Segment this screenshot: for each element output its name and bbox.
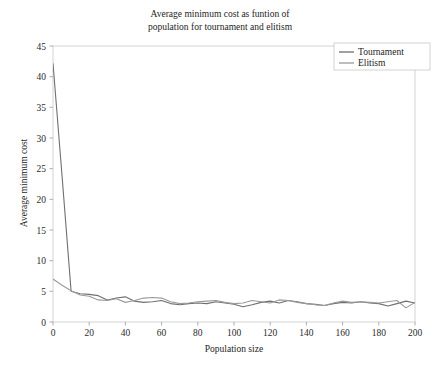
y-tick-label: 20 [37,195,47,205]
y-tick-label: 15 [37,226,47,236]
x-tick-label: 80 [193,328,203,338]
series-line-tournament [53,63,415,307]
chart-legend: TournamentElitism [334,43,430,70]
x-tick-label: 160 [335,328,350,338]
x-tick-label: 0 [51,328,56,338]
legend-item-elitism: Elitism [358,58,386,68]
y-tick-label: 45 [37,42,47,52]
x-axis-label: Population size [53,344,415,354]
y-tick-label: 35 [37,103,47,113]
x-tick-label: 120 [263,328,278,338]
chart-title: Average minimum cost as funtion of popul… [70,8,370,34]
y-tick-label: 10 [37,256,47,266]
series-line-elitism [53,279,415,308]
y-tick-label: 25 [37,164,47,174]
y-tick-label: 5 [41,287,46,297]
y-tick-label: 0 [41,318,46,328]
chart-figure: Average minimum cost as funtion of popul… [0,0,443,374]
x-tick-label: 100 [227,328,242,338]
legend-item-tournament: Tournament [358,47,404,57]
x-tick-label: 140 [299,328,314,338]
y-tick-label: 40 [37,72,47,82]
x-tick-label: 20 [84,328,94,338]
plot-area: 0204060801001201401601802000510152025303… [0,0,443,374]
y-tick-label: 30 [37,134,47,144]
x-tick-label: 60 [157,328,167,338]
data-series [53,63,415,308]
axis-ticks: 0204060801001201401601802000510152025303… [37,42,423,339]
x-tick-label: 40 [121,328,131,338]
plot-frame [53,46,415,322]
x-tick-label: 200 [408,328,423,338]
x-tick-label: 180 [372,328,387,338]
y-axis-label: Average minimum cost [19,113,29,253]
